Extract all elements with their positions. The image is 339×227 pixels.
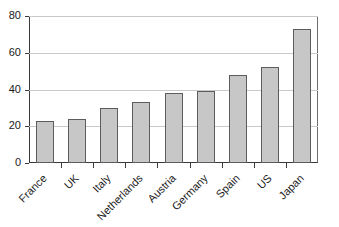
bar-slot: [36, 16, 54, 163]
x-axis-tick: [125, 163, 126, 168]
x-axis-tick: [286, 163, 287, 168]
y-axis-tick-label: 20: [0, 120, 21, 131]
bar-slot: [197, 16, 215, 163]
bar-slot: [68, 16, 86, 163]
bar: [293, 29, 311, 163]
y-axis-tick: [25, 163, 29, 164]
bars-group: [29, 16, 318, 163]
bar: [36, 121, 54, 163]
y-axis-tick-label: 80: [0, 10, 21, 21]
x-axis-tick: [93, 163, 94, 168]
bar-slot: [293, 16, 311, 163]
y-axis-tick-label: 0: [0, 157, 21, 168]
bar-slot: [132, 16, 150, 163]
bar: [261, 67, 279, 163]
bar: [100, 108, 118, 163]
bar-slot: [261, 16, 279, 163]
y-axis-tick-label: 40: [0, 84, 21, 95]
bar: [132, 102, 150, 163]
y-axis-tick-label: 60: [0, 47, 21, 58]
x-axis-tick: [222, 163, 223, 168]
x-axis-tick: [157, 163, 158, 168]
bar-slot: [165, 16, 183, 163]
bar-slot: [229, 16, 247, 163]
x-axis-tick: [190, 163, 191, 168]
bar: [197, 91, 215, 163]
bar: [68, 119, 86, 163]
x-axis-tick: [61, 163, 62, 168]
bar: [165, 93, 183, 163]
bar-slot: [100, 16, 118, 163]
bar: [229, 75, 247, 163]
bar-chart: 020406080 FranceUKItalyNetherlandsAustri…: [0, 0, 339, 227]
x-axis-tick: [254, 163, 255, 168]
